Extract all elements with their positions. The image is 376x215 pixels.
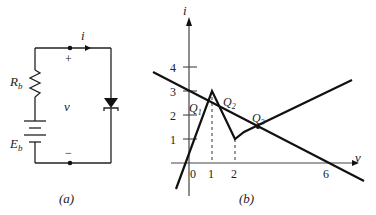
graph [153, 17, 364, 196]
q3-label: Q3 [252, 111, 265, 127]
x-tick-0: 0 [190, 167, 196, 181]
resistor-label: Rb [9, 74, 23, 91]
plus-sign: + [65, 52, 72, 66]
y-axis-arrow-icon [186, 17, 192, 26]
terminal-minus-dot [68, 161, 73, 166]
y-tick-2: 2 [170, 109, 176, 123]
x-tick-2: 2 [231, 167, 237, 181]
q3-point [256, 125, 260, 129]
y-tick-4: 4 [170, 61, 176, 75]
q2-label: Q2 [223, 95, 236, 111]
terminal-plus-dot [68, 46, 73, 51]
current-arrow-icon [85, 45, 91, 51]
q1-label: Q1 [189, 101, 202, 117]
minus-sign: − [65, 146, 72, 160]
current-label: i [81, 28, 85, 43]
figure: i + − v Rb Eb (a) i v 1 2 3 4 0 1 [0, 0, 376, 215]
y-tick-3: 3 [170, 85, 176, 99]
battery-icon [24, 121, 46, 142]
y-tick-1: 1 [170, 133, 176, 147]
voltage-label: v [64, 99, 70, 114]
x-axis-label: v [355, 150, 361, 165]
y-axis-label: i [183, 3, 187, 18]
caption-a: (a) [59, 191, 74, 206]
caption-b: (b) [239, 191, 254, 206]
source-label: Eb [9, 136, 23, 153]
x-tick-1: 1 [208, 167, 214, 181]
x-tick-6: 6 [323, 167, 329, 181]
resistor-icon [30, 70, 40, 97]
